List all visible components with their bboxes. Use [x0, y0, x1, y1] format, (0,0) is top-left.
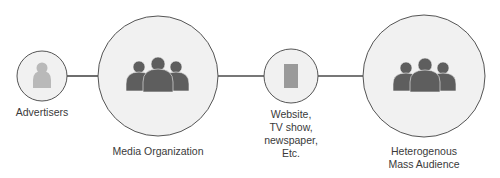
- label-line: Etc.: [264, 147, 318, 160]
- media-rectangle-icon: [284, 64, 298, 88]
- label-line: Heterogenous: [388, 145, 459, 158]
- node-media-outlet: [264, 49, 318, 103]
- label-advertisers: Advertisers: [16, 106, 69, 119]
- group-people-icon: [126, 57, 189, 92]
- node-mass-audience: [363, 15, 485, 137]
- label-line: Website,: [264, 108, 318, 121]
- label-media-outlet: Website, TV show, newspaper, Etc.: [264, 108, 318, 160]
- node-advertisers: [17, 51, 67, 101]
- label-media-organization: Media Organization: [112, 145, 203, 158]
- label-line: Mass Audience: [388, 158, 459, 171]
- mass-communication-diagram: Advertisers Media Organization Website, …: [0, 0, 500, 178]
- node-media-organization: [98, 16, 218, 136]
- label-mass-audience: Heterogenous Mass Audience: [388, 145, 459, 171]
- label-line: TV show,: [264, 121, 318, 134]
- label-line: newspaper,: [264, 134, 318, 147]
- group-people-icon: [393, 58, 456, 92]
